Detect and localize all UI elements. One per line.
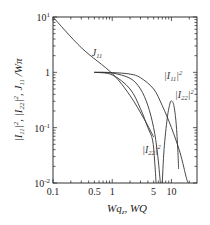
y-tick-label: 1 bbox=[45, 67, 50, 78]
curves-layer bbox=[53, 17, 189, 183]
curve-label: |I11|2 bbox=[164, 69, 183, 82]
x-tick-label: 0.1 bbox=[47, 186, 60, 197]
x-tick-label: 10 bbox=[166, 186, 176, 197]
labels-layer: 0.10.51510101110-110-2J11|I11|2|I22|2|I2… bbox=[34, 11, 194, 197]
x-tick-label: 5 bbox=[151, 186, 156, 197]
chart: 0.10.51510101110-110-2J11|I11|2|I22|2|I2… bbox=[0, 0, 210, 225]
y-axis-title: |I11|2, |I22|2, J11 /Wπ bbox=[12, 58, 26, 141]
x-tick-label: 0.5 bbox=[88, 186, 101, 197]
plot-frame bbox=[53, 17, 197, 183]
ticks-layer bbox=[53, 17, 197, 183]
x-axis-title: Wqz, WQ bbox=[107, 202, 147, 216]
y-tick-label: 101 bbox=[37, 11, 51, 23]
curve-label: |I22|2 bbox=[142, 143, 161, 156]
curve-label: |I22|2 bbox=[175, 88, 194, 101]
x-tick-label: 1 bbox=[110, 186, 115, 197]
curve-label: J11 bbox=[92, 47, 102, 59]
y-tick-label: 10-1 bbox=[34, 122, 50, 134]
series-line-2 bbox=[94, 72, 160, 183]
